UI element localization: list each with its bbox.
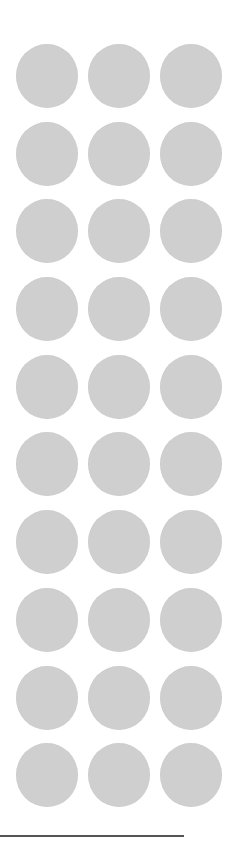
placeholder-circle-icon [16,355,78,419]
placeholder-circle-icon [88,666,150,730]
placeholder-circle-icon [16,44,78,108]
placeholder-circle-icon [16,277,78,341]
placeholder-circle-icon [88,510,150,574]
placeholder-circle-icon [16,743,78,807]
placeholder-circle-icon [88,743,150,807]
placeholder-circle-icon [160,355,222,419]
loading-placeholder-grid [16,44,222,807]
placeholder-circle-icon [16,666,78,730]
placeholder-circle-icon [16,432,78,496]
placeholder-circle-icon [88,277,150,341]
placeholder-circle-icon [88,355,150,419]
placeholder-circle-icon [160,666,222,730]
placeholder-circle-icon [160,510,222,574]
placeholder-circle-icon [88,588,150,652]
placeholder-circle-icon [88,44,150,108]
placeholder-circle-icon [16,510,78,574]
placeholder-circle-icon [160,122,222,186]
placeholder-circle-icon [88,199,150,263]
placeholder-circle-icon [16,588,78,652]
placeholder-circle-icon [88,432,150,496]
placeholder-circle-icon [16,199,78,263]
divider-line [0,835,184,837]
placeholder-circle-icon [160,277,222,341]
placeholder-circle-icon [160,44,222,108]
placeholder-circle-icon [160,743,222,807]
placeholder-circle-icon [160,432,222,496]
placeholder-circle-icon [16,122,78,186]
placeholder-circle-icon [88,122,150,186]
placeholder-circle-icon [160,588,222,652]
placeholder-circle-icon [160,199,222,263]
